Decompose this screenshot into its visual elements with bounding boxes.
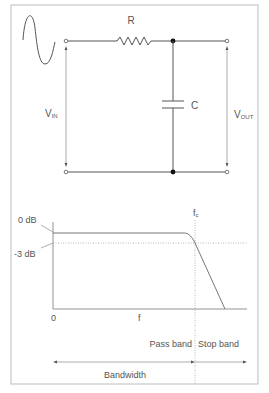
minus-3db-leader <box>41 243 53 248</box>
node-bottom <box>171 170 176 175</box>
frequency-response-curve <box>53 233 225 309</box>
vin-arrow-head-bottom <box>65 163 68 167</box>
vout-arrow-head-bottom <box>226 163 229 167</box>
bandwidth-arrow-head-left <box>53 361 57 364</box>
pass-band-label: Pass band <box>149 339 192 349</box>
rc-lowpass-diagram: R C VIN VOUT 0 dB -3 dB 0 f fc Pass band… <box>0 0 269 393</box>
resistor-icon <box>117 37 151 45</box>
x-origin-label: 0 <box>51 313 56 323</box>
cutoff-label: fc <box>193 208 199 218</box>
minus-3db-label: -3 dB <box>14 249 36 259</box>
0db-label: 0 dB <box>18 215 37 225</box>
stopband-arrow-head <box>243 361 247 364</box>
resistor-label: R <box>127 15 134 26</box>
vout-arrow-head-top <box>226 46 229 50</box>
capacitor-label: C <box>191 100 198 111</box>
output-terminal-top <box>225 39 229 43</box>
x-axis-label: f <box>138 313 141 323</box>
input-terminal-bottom <box>64 170 68 174</box>
top-wire <box>68 37 225 45</box>
output-terminal-bottom <box>225 170 229 174</box>
stop-band-label: Stop band <box>198 339 239 349</box>
capacitor-branch <box>162 41 184 172</box>
vin-arrow-head-top <box>65 46 68 50</box>
bandwidth-label: Bandwidth <box>104 370 146 380</box>
vin-label: VIN <box>45 108 58 119</box>
sine-wave-icon <box>23 16 55 64</box>
0db-leader <box>41 225 53 232</box>
vout-label: VOUT <box>234 109 254 120</box>
input-terminal-top <box>64 39 68 43</box>
bandwidth-arrow-head-right <box>191 361 195 364</box>
